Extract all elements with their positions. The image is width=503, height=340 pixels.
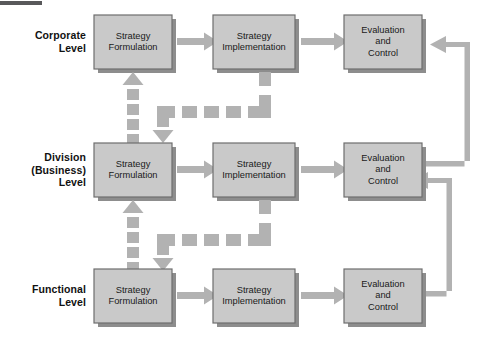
row-label-corporate-line1: Corporate	[0, 29, 86, 42]
box-label-line2: Formulation	[108, 296, 157, 307]
box-label-line3: Control	[368, 302, 398, 313]
box-label-division-strategy-formulation: Strategy Formulation	[94, 143, 172, 197]
row-label-corporate-line2: Level	[0, 42, 86, 55]
flow-arrow-r3-formulation-to-implementation	[177, 287, 218, 305]
box-label-division-evaluation-and-control: Evaluation and Control	[344, 143, 422, 197]
box-label-line3: Control	[368, 48, 398, 59]
dashed-connector-corporate-division	[123, 72, 272, 143]
box-label-line1: Strategy	[116, 31, 151, 42]
row-label-division-line1: Division	[0, 151, 86, 164]
row-label-corporate: Corporate Level	[0, 29, 86, 54]
box-label-line1: Evaluation	[361, 25, 404, 36]
box-label-line1: Strategy	[116, 285, 151, 296]
row-label-division-line3: Level	[0, 176, 86, 189]
flow-arrow-r3-implementation-to-evaluation	[301, 287, 348, 305]
box-label-line1: Strategy	[237, 285, 272, 296]
box-label-line1: Evaluation	[361, 153, 404, 164]
dashed-connector-division-functional	[123, 200, 272, 271]
flow-arrow-r2-implementation-to-evaluation	[301, 161, 348, 179]
box-label-line1: Strategy	[237, 31, 272, 42]
row-label-functional-line1: Functional	[0, 283, 86, 296]
box-label-line2: and	[375, 290, 391, 301]
box-label-line2: and	[375, 36, 391, 47]
figure-canvas: Corporate Level Division (Business) Leve…	[0, 0, 503, 340]
box-label-line2: Formulation	[108, 42, 157, 53]
box-label-functional-strategy-formulation: Strategy Formulation	[94, 269, 172, 323]
box-label-line2: Implementation	[222, 296, 286, 307]
flow-arrow-r1-implementation-to-evaluation	[301, 33, 348, 51]
box-label-functional-evaluation-and-control: Evaluation and Control	[344, 269, 422, 323]
box-label-line2: and	[375, 164, 391, 175]
box-label-line3: Control	[368, 176, 398, 187]
row-label-division: Division (Business) Level	[0, 151, 86, 189]
box-label-division-strategy-implementation: Strategy Implementation	[213, 143, 295, 197]
box-label-corporate-evaluation-and-control: Evaluation and Control	[344, 15, 422, 69]
box-label-functional-strategy-implementation: Strategy Implementation	[213, 269, 295, 323]
box-label-line1: Strategy	[237, 159, 272, 170]
box-label-line2: Implementation	[222, 42, 286, 53]
row-label-functional: Functional Level	[0, 283, 86, 308]
box-label-line2: Implementation	[222, 170, 286, 181]
box-label-line1: Evaluation	[361, 279, 404, 290]
box-label-corporate-strategy-implementation: Strategy Implementation	[213, 15, 295, 69]
flow-arrow-r2-formulation-to-implementation	[177, 161, 218, 179]
box-label-corporate-strategy-formulation: Strategy Formulation	[94, 15, 172, 69]
flow-arrow-r1-formulation-to-implementation	[177, 33, 218, 51]
row-label-functional-line2: Level	[0, 296, 86, 309]
box-label-line1: Strategy	[116, 159, 151, 170]
box-label-line2: Formulation	[108, 170, 157, 181]
row-label-division-line2: (Business)	[0, 164, 86, 177]
feedback-loop-division-to-corporate	[422, 36, 470, 167]
